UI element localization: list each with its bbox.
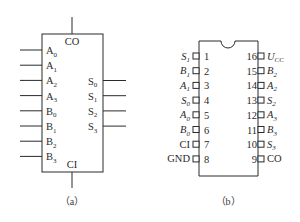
pin-label: GND (167, 153, 190, 164)
pin-label: S2 (267, 95, 276, 109)
input-label: B2 (46, 136, 57, 150)
ci-label: CI (67, 159, 78, 170)
pin-number: 9 (252, 154, 257, 165)
input-label: B3 (46, 151, 57, 165)
pin-label: S0 (181, 95, 190, 109)
pin-label: B2 (267, 65, 277, 79)
diagram-canvas: CO CI A0A1A2A3B0B1B2B3 S0S1S2S3 （a） 1S12… (0, 0, 300, 222)
pin-label: S1 (181, 51, 190, 65)
pin-15 (258, 68, 264, 74)
input-pins: A0A1A2A3B0B1B2B3 (20, 45, 58, 165)
pin-label: A2 (266, 80, 277, 94)
output-label: S3 (88, 121, 98, 135)
input-label: A2 (46, 75, 58, 89)
pin-number: 12 (247, 110, 258, 121)
caption-a: （a） (60, 196, 84, 207)
pin-11 (258, 127, 264, 133)
pin-6 (193, 127, 199, 133)
pin-label: CI (180, 139, 191, 150)
pin-label: B0 (180, 124, 190, 138)
output-label: S1 (88, 91, 98, 105)
pin-number: 13 (247, 95, 258, 106)
output-label: S0 (88, 76, 98, 90)
pin-number: 10 (247, 139, 258, 150)
output-label: S2 (88, 106, 98, 120)
pin-7 (193, 141, 199, 147)
pin-number: 7 (204, 139, 209, 150)
pin-4 (193, 97, 199, 103)
pin-number: 14 (247, 80, 258, 91)
pin-16 (258, 53, 264, 59)
pin-number: 6 (204, 125, 209, 136)
pin-label: B3 (267, 124, 277, 138)
pin-number: 1 (204, 51, 209, 62)
pin-number: 16 (247, 51, 258, 62)
pin-1 (193, 53, 199, 59)
pin-label: A0 (179, 109, 190, 123)
input-label: B1 (46, 121, 57, 135)
pin-number: 5 (204, 110, 209, 121)
pin-label: A3 (266, 109, 277, 123)
pin-10 (258, 141, 264, 147)
logic-symbol-a: CO CI A0A1A2A3B0B1B2B3 S0S1S2S3 （a） (20, 17, 126, 207)
pin-12 (258, 112, 264, 118)
left-pins: 1S12B13A14S05A06B07CI8GND (167, 51, 210, 165)
output-pins: S0S1S2S3 (88, 76, 126, 135)
pin-label: CO (267, 153, 282, 164)
pin-5 (193, 112, 199, 118)
pin-number: 3 (204, 80, 209, 91)
dip-package-b: 1S12B13A14S05A06B07CI8GND 16UCC15B214A21… (167, 41, 284, 207)
caption-b: （b） (216, 196, 241, 207)
input-label: A3 (46, 91, 58, 105)
input-label: B0 (46, 106, 57, 120)
pin-label: B1 (180, 65, 190, 79)
pin-14 (258, 82, 264, 88)
pin-9 (258, 156, 264, 162)
pin-3 (193, 82, 199, 88)
right-pins: 16UCC15B214A213S212A311B310S39CO (247, 51, 285, 165)
pin-2 (193, 68, 199, 74)
pin-label: UCC (267, 51, 284, 65)
pin-8 (193, 156, 199, 162)
pin-number: 8 (204, 154, 209, 165)
pin-13 (258, 97, 264, 103)
input-label: A0 (46, 45, 58, 59)
pin-label: A1 (179, 80, 190, 94)
pin-number: 15 (247, 66, 258, 77)
input-label: A1 (46, 60, 58, 74)
pin-label: S3 (267, 139, 276, 153)
co-label: CO (65, 36, 80, 47)
pin-number: 4 (204, 95, 210, 106)
pin-number: 11 (247, 125, 257, 136)
pin-number: 2 (204, 66, 209, 77)
